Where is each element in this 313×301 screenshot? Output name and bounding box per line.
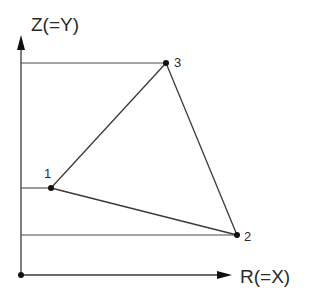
vertical-axis-arrow-icon (17, 35, 25, 50)
point-2-dot (234, 232, 240, 238)
edge-1-2 (51, 188, 237, 235)
edge-1-3 (51, 63, 166, 188)
horizontal-axis-arrow-icon (217, 271, 232, 279)
reference-lines (21, 63, 237, 235)
triangle-diagram: 123 Z(=Y) R(=X) (0, 0, 313, 301)
point-3-dot (163, 60, 169, 66)
origin-dot (18, 272, 24, 278)
point-2-label: 2 (244, 229, 251, 244)
point-3-label: 3 (174, 55, 181, 70)
edge-3-2 (166, 63, 237, 235)
triangle-edges (51, 63, 237, 235)
point-1-label: 1 (44, 166, 51, 181)
horizontal-axis-label: R(=X) (240, 266, 290, 287)
point-1-dot (48, 185, 54, 191)
vertical-axis-label: Z(=Y) (31, 14, 79, 35)
